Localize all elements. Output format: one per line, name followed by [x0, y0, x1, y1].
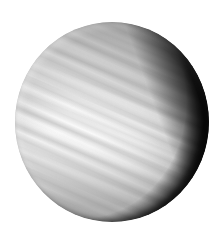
planet-disk — [15, 22, 209, 222]
limb-edge — [15, 22, 209, 222]
